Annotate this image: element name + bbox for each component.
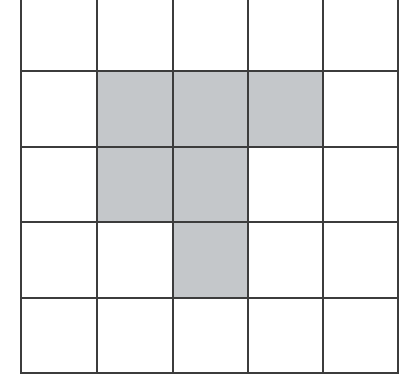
shaded-cell — [97, 147, 173, 222]
grid-line-horizontal — [21, 297, 399, 299]
shaded-cell — [248, 71, 323, 147]
empty-cell — [323, 222, 398, 298]
empty-cell — [97, 0, 173, 71]
empty-cell — [21, 298, 97, 373]
grid-line-horizontal — [21, 221, 399, 223]
empty-cell — [21, 147, 97, 222]
empty-cell — [173, 298, 248, 373]
grid-line-horizontal — [21, 70, 399, 72]
empty-cell — [173, 0, 248, 71]
empty-cell — [248, 147, 323, 222]
empty-cell — [248, 222, 323, 298]
empty-cell — [248, 298, 323, 373]
grid-diagram — [21, 0, 398, 373]
empty-cell — [248, 0, 323, 71]
empty-cell — [21, 0, 97, 71]
grid-line-horizontal — [21, 372, 399, 374]
shaded-cell — [173, 71, 248, 147]
grid-line-vertical — [96, 0, 98, 374]
grid-line-vertical — [247, 0, 249, 374]
shaded-cell — [173, 147, 248, 222]
shaded-cell — [173, 222, 248, 298]
grid-line-vertical — [397, 0, 399, 374]
empty-cell — [323, 147, 398, 222]
empty-cell — [21, 71, 97, 147]
shaded-cell — [97, 71, 173, 147]
empty-cell — [323, 0, 398, 71]
empty-cell — [323, 71, 398, 147]
empty-cell — [323, 298, 398, 373]
empty-cell — [97, 298, 173, 373]
grid-line-vertical — [20, 0, 22, 374]
grid-line-vertical — [172, 0, 174, 374]
grid-line-horizontal — [21, 146, 399, 148]
empty-cell — [21, 222, 97, 298]
empty-cell — [97, 222, 173, 298]
grid-line-vertical — [322, 0, 324, 374]
